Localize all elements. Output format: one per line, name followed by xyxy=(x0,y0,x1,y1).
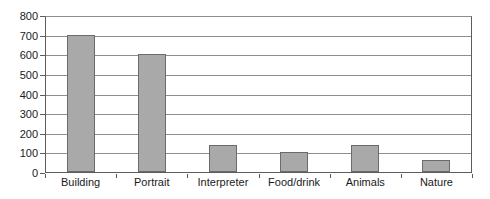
plot-area xyxy=(45,16,472,173)
bar-interpreter[interactable] xyxy=(209,145,237,172)
y-axis-tick-label: 100 xyxy=(0,148,38,159)
bar-slot xyxy=(329,17,400,172)
y-axis-tick-label: 500 xyxy=(0,69,38,80)
bar-slot xyxy=(46,17,117,172)
bar-chart: 8007006005004003002001000 BuildingPortra… xyxy=(0,0,490,199)
x-axis-category-label: Interpreter xyxy=(187,177,258,188)
x-axis-tick-mark xyxy=(472,174,473,178)
y-axis-tick-label: 300 xyxy=(0,109,38,120)
bar-slot xyxy=(258,17,329,172)
bar-animals[interactable] xyxy=(351,145,379,172)
bars-layer xyxy=(46,17,471,172)
bar-nature[interactable] xyxy=(422,160,450,172)
bar-slot xyxy=(400,17,471,172)
y-axis-tick-label: 800 xyxy=(0,11,38,22)
y-axis-tick-label: 700 xyxy=(0,30,38,41)
x-axis-labels: BuildingPortraitInterpreterFood/drinkAni… xyxy=(45,177,472,188)
x-axis-category-label: Portrait xyxy=(116,177,187,188)
y-axis-tick-label: 200 xyxy=(0,128,38,139)
y-axis-tick-label: 0 xyxy=(0,168,38,179)
x-axis-category-label: Building xyxy=(45,177,116,188)
bar-slot xyxy=(188,17,259,172)
x-axis-category-label: Animals xyxy=(330,177,401,188)
y-axis-tick-label: 600 xyxy=(0,50,38,61)
bar-building[interactable] xyxy=(67,35,95,172)
y-axis-tick-label: 400 xyxy=(0,89,38,100)
bar-slot xyxy=(117,17,188,172)
bar-food-drink[interactable] xyxy=(280,152,308,172)
x-axis-category-label: Food/drink xyxy=(259,177,330,188)
x-axis-category-label: Nature xyxy=(401,177,472,188)
bar-portrait[interactable] xyxy=(138,54,166,172)
